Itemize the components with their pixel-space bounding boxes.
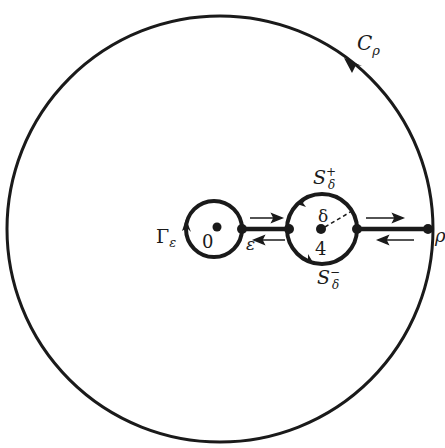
arrow-right-icon — [366, 214, 403, 222]
junction-right-indent — [352, 224, 362, 234]
arrow-right-icon — [250, 214, 282, 222]
junction-epsilon — [237, 224, 247, 234]
label-s-delta-minus: S−δ — [317, 265, 340, 292]
label-rho: ρ — [434, 225, 445, 246]
arrow-left-icon — [378, 236, 414, 244]
label-origin-0: 0 — [202, 231, 213, 252]
c-rho-arrow-icon — [344, 58, 362, 73]
contour-diagram: Cρ Γε 0 ε S+δ δ 4 S−δ ρ — [0, 0, 445, 448]
label-epsilon: ε — [246, 234, 255, 254]
label-gamma-epsilon: Γε — [156, 225, 176, 250]
label-point-4: 4 — [315, 238, 326, 259]
junction-rho — [423, 224, 433, 234]
arrow-left-icon — [254, 236, 285, 244]
label-c-rho: Cρ — [357, 31, 380, 58]
junction-left-indent — [284, 224, 294, 234]
origin-point — [213, 223, 222, 232]
label-delta: δ — [318, 206, 328, 226]
radius-delta-line — [325, 211, 352, 227]
label-s-delta-plus: S+δ — [313, 165, 336, 192]
